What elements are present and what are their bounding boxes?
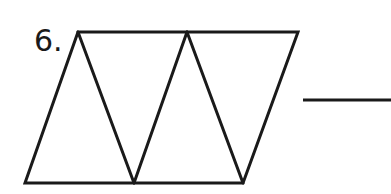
diagonal-line (134, 32, 187, 183)
triangle-figure (0, 0, 391, 194)
diagonal-line (187, 32, 243, 183)
diagonal-line (78, 32, 134, 183)
